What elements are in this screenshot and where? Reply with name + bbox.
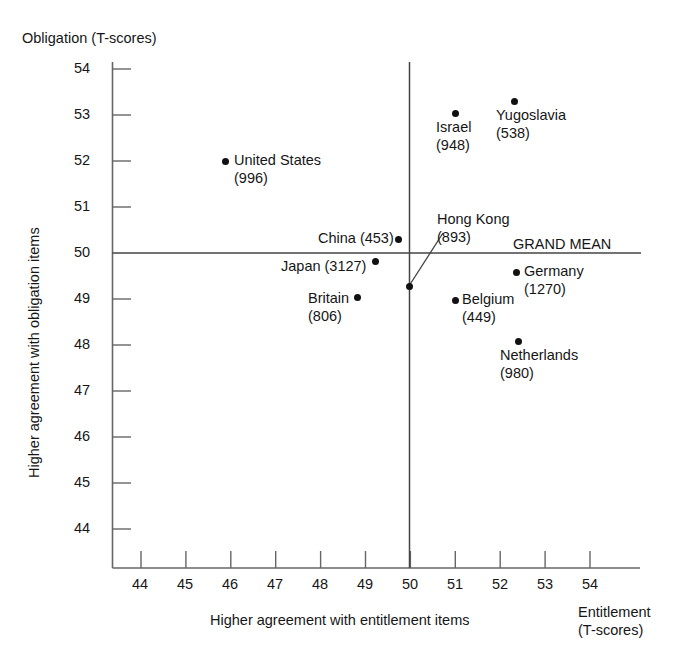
data-label-israel-name: Israel — [436, 119, 471, 136]
data-point-china[interactable] — [395, 236, 402, 243]
data-label-belgium-n: (449) — [462, 309, 496, 326]
x-tick-label-46: 46 — [222, 576, 238, 592]
data-label-britain-n: (806) — [308, 308, 342, 325]
data-point-belgium[interactable] — [452, 297, 459, 304]
y-tick-label-48: 48 — [74, 336, 90, 352]
data-point-hong-kong[interactable] — [406, 283, 413, 290]
y-tick-label-46: 46 — [74, 428, 90, 444]
data-label-netherlands-n: (980) — [500, 365, 534, 382]
data-label-yugoslavia-n: (538) — [496, 125, 530, 142]
data-label-hong-kong-name: Hong Kong — [437, 211, 510, 228]
x-tick-label-45: 45 — [177, 576, 193, 592]
data-label-united-states-name: United States — [234, 152, 321, 169]
scatter-plot-figure: Obligation (T-scores) Higher agreement w… — [0, 0, 682, 663]
data-point-netherlands[interactable] — [515, 338, 522, 345]
y-tick-label-44: 44 — [74, 520, 90, 536]
y-tick-label-45: 45 — [74, 474, 90, 490]
data-label-yugoslavia-name: Yugoslavia — [496, 107, 566, 124]
data-point-germany[interactable] — [513, 269, 520, 276]
data-label-israel-n: (948) — [436, 137, 470, 154]
x-tick-label-50: 50 — [402, 576, 418, 592]
y-axis-ticks — [113, 69, 132, 529]
data-label-belgium-name: Belgium — [462, 291, 514, 308]
data-point-britain[interactable] — [354, 294, 361, 301]
x-tick-label-47: 47 — [267, 576, 283, 592]
x-axis-corner-sublabel: (T-scores) — [578, 622, 643, 638]
x-tick-label-48: 48 — [312, 576, 328, 592]
y-tick-label-47: 47 — [74, 382, 90, 398]
x-axis-corner-label: Entitlement — [578, 604, 651, 620]
data-label-britain-name: Britain — [308, 290, 349, 307]
grand-mean-label: GRAND MEAN — [513, 236, 611, 252]
x-tick-label-49: 49 — [357, 576, 373, 592]
y-tick-label-50: 50 — [74, 244, 90, 260]
y-tick-label-49: 49 — [74, 290, 90, 306]
y-axis-title: Higher agreement with obligation items — [26, 227, 42, 478]
plot-axes-and-lines — [0, 0, 682, 663]
x-tick-label-53: 53 — [537, 576, 553, 592]
data-label-united-states-n: (996) — [234, 170, 268, 187]
x-axis-ticks — [141, 551, 590, 568]
data-point-japan[interactable] — [372, 258, 379, 265]
y-axis-header-label: Obligation (T-scores) — [22, 30, 157, 46]
x-axis-title: Higher agreement with entitlement items — [210, 612, 470, 628]
y-tick-label-53: 53 — [74, 106, 90, 122]
y-tick-label-52: 52 — [74, 152, 90, 168]
data-point-united-states[interactable] — [222, 158, 229, 165]
data-label-netherlands-name: Netherlands — [500, 347, 578, 364]
data-label-hong-kong-n: (893) — [437, 229, 471, 246]
data-label-china: China (453) — [318, 230, 394, 247]
y-tick-label-54: 54 — [74, 60, 90, 76]
data-label-japan: Japan (3127) — [281, 258, 366, 275]
data-label-germany-n: (1270) — [524, 281, 566, 298]
data-point-yugoslavia[interactable] — [511, 98, 518, 105]
data-point-israel[interactable] — [452, 110, 459, 117]
x-tick-label-51: 51 — [447, 576, 463, 592]
x-tick-label-44: 44 — [132, 576, 148, 592]
data-label-germany-name: Germany — [524, 263, 584, 280]
x-tick-label-52: 52 — [492, 576, 508, 592]
x-tick-label-54: 54 — [582, 576, 598, 592]
y-tick-label-51: 51 — [74, 198, 90, 214]
